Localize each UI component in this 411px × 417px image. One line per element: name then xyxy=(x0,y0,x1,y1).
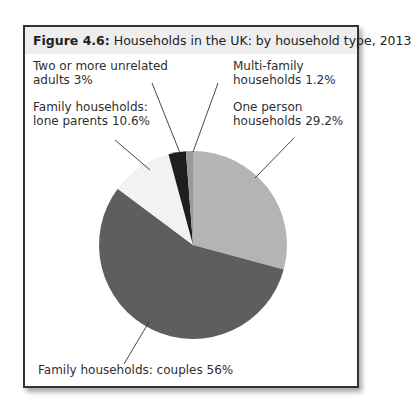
leader-line-multi-family xyxy=(193,83,218,152)
label-couples: Family households: couples 56% xyxy=(38,363,233,377)
leader-line-lone-parents xyxy=(115,140,150,170)
label-lone-parents: Family households: lone parents 10.6% xyxy=(33,100,150,128)
label-line: adults 3% xyxy=(33,73,168,87)
label-multi-family: Multi-family households 1.2% xyxy=(233,59,336,87)
label-line: One person xyxy=(233,100,343,114)
label-line: Family households: xyxy=(33,100,150,114)
label-line: households 1.2% xyxy=(233,73,336,87)
leader-line-one-person xyxy=(255,138,294,178)
leader-line-couples xyxy=(124,322,149,364)
label-line: Two or more unrelated xyxy=(33,59,168,73)
pie-slices xyxy=(99,151,287,339)
label-line: households 29.2% xyxy=(233,114,343,128)
leader-line-two-or-more xyxy=(152,83,180,153)
label-two-or-more: Two or more unrelated adults 3% xyxy=(33,59,168,87)
label-line: Multi-family xyxy=(233,59,336,73)
label-one-person: One person households 29.2% xyxy=(233,100,343,128)
label-line: Family households: couples 56% xyxy=(38,363,233,377)
label-line: lone parents 10.6% xyxy=(33,114,150,128)
